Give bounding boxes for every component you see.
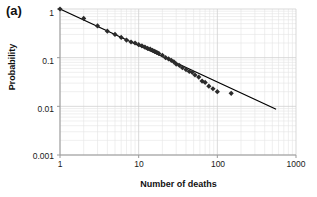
grid-minor-lines <box>60 9 296 155</box>
grid-major-lines <box>60 9 296 155</box>
figure-panel-a: (a) Probability Number of deaths 1 0.1 0… <box>0 0 317 197</box>
plot-area <box>0 0 317 197</box>
